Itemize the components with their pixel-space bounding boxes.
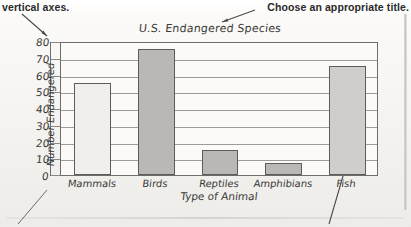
x-axis-tick-label: Reptiles xyxy=(198,178,239,189)
plot-area xyxy=(60,42,378,176)
y-axis-tick xyxy=(51,42,60,43)
x-axis-tick-label: Amphibians xyxy=(252,178,312,189)
x-axis-title: Type of Animal xyxy=(59,190,378,202)
bar-birds xyxy=(138,49,175,175)
bar-reptiles xyxy=(202,150,239,175)
x-axis-tick-label: Birds xyxy=(142,178,168,189)
y-axis-tick xyxy=(51,175,60,176)
y-axis-title: Number Endangered xyxy=(45,54,56,175)
worksheet-page: vertical axes. Choose an appropriate tit… xyxy=(0,0,411,227)
annotation-choose-title: Choose an appropriate title. xyxy=(267,1,409,13)
x-axis-tick-label: Fish xyxy=(336,178,357,189)
bar-amphibians xyxy=(265,163,302,175)
x-axis-tick-label: Mammals xyxy=(67,178,117,189)
gridline xyxy=(61,60,377,61)
bar-fish xyxy=(329,66,366,175)
scan-edge-bottom xyxy=(6,217,403,219)
y-axis-tick-label: 80 xyxy=(35,37,50,48)
annotation-vertical-axes: vertical axes. xyxy=(2,1,69,13)
chart-title: U.S. Endangered Species xyxy=(27,22,392,35)
scan-edge-right xyxy=(404,14,407,210)
bar-mammals xyxy=(74,83,111,175)
chart: U.S. Endangered Species 0102030405060708… xyxy=(28,22,392,204)
